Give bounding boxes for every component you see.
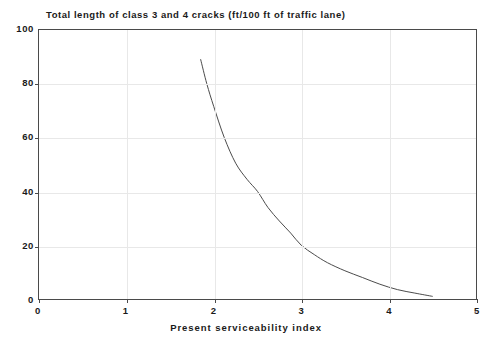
- gridline-vertical: [302, 30, 303, 299]
- x-axis-labels: 012345: [0, 305, 492, 321]
- y-tick-label: 0: [0, 294, 34, 305]
- gridline-horizontal: [39, 193, 476, 194]
- y-tick-mark: [35, 84, 39, 85]
- x-tick-label: 0: [18, 305, 58, 316]
- y-tick-label: 100: [0, 23, 34, 34]
- chart-title: Total length of class 3 and 4 cracks (ft…: [46, 9, 346, 20]
- x-tick-label: 2: [194, 305, 234, 316]
- gridline-horizontal: [39, 247, 476, 248]
- y-tick-label: 80: [0, 77, 34, 88]
- x-tick-mark: [477, 299, 478, 303]
- y-tick-label: 40: [0, 186, 34, 197]
- gridline-horizontal: [39, 84, 476, 85]
- x-tick-mark: [215, 299, 216, 303]
- x-tick-label: 3: [281, 305, 321, 316]
- y-tick-mark: [35, 138, 39, 139]
- gridline-vertical: [127, 30, 128, 299]
- curve-path: [201, 60, 433, 297]
- y-tick-label: 20: [0, 240, 34, 251]
- gridline-vertical: [215, 30, 216, 299]
- gridline-vertical: [390, 30, 391, 299]
- x-tick-mark: [39, 299, 40, 303]
- y-tick-label: 60: [0, 131, 34, 142]
- data-curve: [39, 30, 476, 299]
- x-tick-mark: [390, 299, 391, 303]
- x-tick-label: 1: [106, 305, 146, 316]
- x-tick-mark: [127, 299, 128, 303]
- x-tick-label: 5: [457, 305, 492, 316]
- gridline-horizontal: [39, 138, 476, 139]
- plot-area: [38, 29, 477, 300]
- y-tick-mark: [35, 193, 39, 194]
- chart-container: Total length of class 3 and 4 cracks (ft…: [0, 0, 492, 348]
- y-tick-mark: [35, 247, 39, 248]
- y-axis-labels: 020406080100: [0, 0, 34, 348]
- x-tick-label: 4: [369, 305, 409, 316]
- x-axis-title: Present serviceability index: [0, 322, 492, 333]
- x-tick-mark: [302, 299, 303, 303]
